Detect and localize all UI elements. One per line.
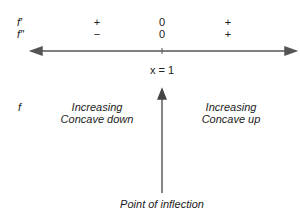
right-behavior-line2: Concave up <box>202 113 261 125</box>
f-double-prime-right-sign: + <box>225 28 231 40</box>
f-double-prime-label: f″ <box>17 28 24 40</box>
left-behavior-line1: Increasing <box>72 101 123 113</box>
inflection-arrow <box>158 89 166 193</box>
f-prime-left-sign: + <box>94 16 100 28</box>
inflection-label: Point of inflection <box>120 198 204 210</box>
f-double-prime-left-sign: − <box>94 28 100 40</box>
f-prime-center-value: 0 <box>159 16 165 28</box>
arrow-left-icon <box>31 47 42 55</box>
right-behavior-line1: Increasing <box>206 101 257 113</box>
arrow-right-icon <box>285 47 296 55</box>
f-prime-label: f′ <box>17 16 22 28</box>
number-line <box>31 47 296 55</box>
x-value-label: x = 1 <box>150 64 174 76</box>
left-behavior-line2: Concave down <box>61 113 134 125</box>
f-label: f <box>18 101 21 113</box>
arrow-up-icon <box>158 89 166 99</box>
f-prime-right-sign: + <box>225 16 231 28</box>
f-double-prime-center-value: 0 <box>159 28 165 40</box>
